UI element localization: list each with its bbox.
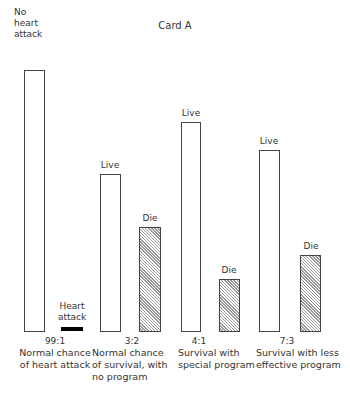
bar-label-heart-attack: Heart attack [52, 301, 92, 323]
bar-label-live: Live [95, 160, 125, 171]
bar-label-no-heart-attack: No heart attack [14, 7, 54, 40]
group-caption: Survival with less effective program [256, 347, 350, 371]
bar-heart-attack [61, 327, 83, 331]
bar-label-live: Live [254, 136, 284, 147]
bar-label-die: Die [296, 241, 326, 252]
bar-no-heart-attack [24, 70, 45, 332]
group-caption: Normal chance of heart attack [12, 347, 98, 371]
ratio-label: 7:3 [272, 336, 302, 347]
bar-die [219, 279, 240, 332]
bar-die [300, 255, 321, 332]
bar-live [181, 122, 201, 332]
ratio-label: 99:1 [30, 336, 80, 347]
bar-label-die: Die [135, 213, 165, 224]
bar-label-live: Live [176, 108, 206, 119]
group-caption: Normal chance of survival, with no progr… [92, 347, 172, 383]
bar-live [259, 150, 280, 332]
bar-die [139, 227, 161, 332]
bar-label-die: Die [214, 265, 244, 276]
bar-live [100, 174, 121, 332]
ratio-label: 3:2 [112, 336, 152, 347]
group-caption: Survival with special program [178, 347, 258, 371]
ratio-label: 4:1 [184, 336, 214, 347]
